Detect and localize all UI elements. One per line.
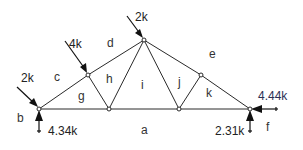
load-arrow-left xyxy=(17,87,38,107)
joint-upper-right xyxy=(199,73,203,77)
zone-labels: a b c d e f g h i j k xyxy=(17,36,270,137)
zone-label-h: h xyxy=(106,72,113,86)
joint-upper-left xyxy=(86,73,90,77)
reaction-left-vertical xyxy=(35,110,43,133)
zone-label-d: d xyxy=(107,36,114,50)
load-label-top: 2k xyxy=(135,10,149,24)
zone-label-g: g xyxy=(78,89,85,103)
truss-diagram: 2k 4k 2k 4.34k 2.31k 4.44k a b c d e f g… xyxy=(0,0,303,150)
zone-label-e: e xyxy=(209,47,216,61)
joint-left-support xyxy=(37,107,41,111)
reaction-right-horizontal xyxy=(251,105,278,113)
arrowhead-icon xyxy=(251,105,262,113)
load-label-mid: 4k xyxy=(69,37,83,51)
reaction-label-right-horizontal: 4.44k xyxy=(258,89,288,103)
reaction-right-vertical xyxy=(246,110,254,133)
load-label-left: 2k xyxy=(21,71,35,85)
reaction-label-right-vertical: 2.31k xyxy=(215,124,245,138)
reaction-label-left-vertical: 4.34k xyxy=(48,124,78,138)
zone-label-f: f xyxy=(266,120,270,134)
joint-lower-right xyxy=(177,107,181,111)
zone-label-c: c xyxy=(54,70,60,84)
zone-label-k: k xyxy=(206,86,213,100)
zone-label-b: b xyxy=(17,111,24,125)
zone-label-i: i xyxy=(141,78,144,92)
member-web-jk xyxy=(179,75,201,109)
arrowhead-icon xyxy=(246,110,254,121)
joint-apex xyxy=(142,38,146,42)
joint-right-support xyxy=(248,107,252,111)
zone-label-j: j xyxy=(177,75,181,89)
arrowhead-icon xyxy=(135,29,143,38)
joint-lower-left xyxy=(107,107,111,111)
arrowhead-icon xyxy=(35,110,43,121)
zone-label-a: a xyxy=(141,123,148,137)
